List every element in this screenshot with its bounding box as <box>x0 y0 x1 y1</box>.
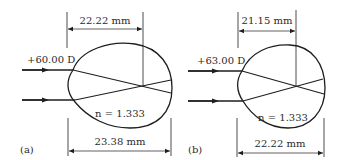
focal-distance-label: 21.15 mm <box>242 15 293 26</box>
refractive-index-label: n = 1.333 <box>258 112 308 123</box>
incident-rays <box>188 71 243 101</box>
refracted-rays <box>73 70 171 100</box>
lens-power-label: +63.00 D <box>197 55 245 66</box>
panel-caption: (b) <box>188 144 202 155</box>
eye-optics-diagram: 22.22 mm +60.00 D n = 1.333 23.38 mm (a) <box>0 0 344 160</box>
refractive-index-label: n = 1.333 <box>95 108 145 119</box>
panel-caption: (a) <box>20 144 34 155</box>
axial-length-label: 22.22 mm <box>255 138 306 149</box>
incident-rays <box>22 70 75 100</box>
focal-distance-label: 22.22 mm <box>80 15 131 26</box>
panel-a: 22.22 mm +60.00 D n = 1.333 23.38 mm (a) <box>20 12 172 156</box>
refracted-rays <box>242 71 324 101</box>
axial-length-dimension: 23.38 mm <box>68 118 171 156</box>
axial-length-dimension: 22.22 mm <box>237 118 324 157</box>
focal-distance-dimension: 22.22 mm <box>67 12 143 86</box>
axial-length-label: 23.38 mm <box>95 136 146 147</box>
panel-b: 21.15 mm +63.00 D n = 1.333 22.22 mm (b) <box>188 10 325 157</box>
lens-power-label: +60.00 D <box>27 54 75 65</box>
